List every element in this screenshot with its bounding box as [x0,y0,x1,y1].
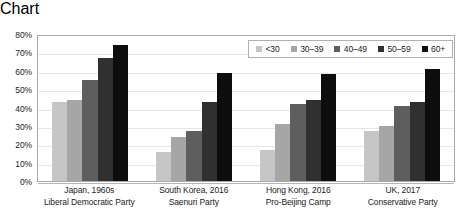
legend-label: 30–39 [300,44,323,54]
x-axis-category-label: Hong Kong, 2016Pro-Beijing Camp [246,185,351,208]
bar-group [38,36,142,181]
legend: <3030–3940–4950–5960+ [248,40,453,58]
x-axis-label-line: Pro-Beijing Camp [246,197,351,209]
bar [290,104,305,181]
bar [52,102,67,181]
bar [410,102,425,181]
y-tick-label: 70% [15,48,32,58]
legend-item: <30 [256,44,280,54]
bar [394,106,409,181]
x-axis-label-line: Japan, 1960s [37,185,142,197]
x-axis-label-line: Saenuri Party [142,197,247,209]
bar [82,80,97,181]
legend-swatch-icon [378,46,384,52]
bar [202,102,217,181]
y-tick-label: 60% [15,67,32,77]
y-tick-label: 30% [15,122,32,132]
bar [425,69,440,181]
y-tick-label: 20% [15,140,32,150]
bar-chart: 0%10%20%30%40%50%60%70%80% <3030–3940–49… [0,18,470,210]
x-axis-labels: Japan, 1960sLiberal Democratic PartySout… [37,185,455,208]
bar [364,131,379,181]
legend-label: <30 [266,44,280,54]
legend-label: 60+ [431,44,445,54]
legend-swatch-icon [291,46,297,52]
legend-item: 60+ [422,44,446,54]
bar [171,137,186,181]
bar [156,152,171,181]
x-axis-category-label: UK, 2017Conservative Party [351,185,456,208]
bar [98,58,113,181]
bar [260,150,275,181]
y-axis: 0%10%20%30%40%50%60%70%80% [0,35,36,182]
bar [275,124,290,181]
x-axis-category-label: Japan, 1960sLiberal Democratic Party [37,185,142,208]
y-tick-label: 40% [15,104,32,114]
legend-label: 40–49 [344,44,367,54]
x-axis-label-line: Hong Kong, 2016 [246,185,351,197]
x-axis-category-label: South Korea, 2016Saenuri Party [142,185,247,208]
y-tick-label: 80% [15,30,32,40]
bar [379,126,394,181]
x-axis-label-line: Liberal Democratic Party [37,197,142,209]
legend-item: 30–39 [291,44,324,54]
legend-swatch-icon [334,46,340,52]
bar-group-bars [156,36,232,181]
legend-item: 40–49 [334,44,367,54]
bar-group-bars [52,36,128,181]
x-axis-label-line: Conservative Party [351,197,456,209]
bar [306,100,321,181]
legend-swatch-icon [256,46,262,52]
y-tick-label: 50% [15,85,32,95]
bar [113,45,128,181]
y-tick-label: 10% [15,159,32,169]
legend-label: 50–59 [387,44,410,54]
gridline [38,183,454,184]
legend-item: 50–59 [378,44,411,54]
bar [67,100,82,181]
bar [321,74,336,181]
legend-swatch-icon [422,46,428,52]
bar [217,73,232,181]
y-tick-label: 0% [20,177,32,187]
bar-group [142,36,246,181]
x-axis-label-line: UK, 2017 [351,185,456,197]
bar [186,131,201,181]
x-axis-label-line: South Korea, 2016 [142,185,247,197]
